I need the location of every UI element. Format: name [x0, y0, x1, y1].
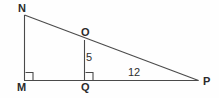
measure-label-oq: 5	[86, 52, 92, 63]
vertex-label-n: N	[18, 3, 26, 14]
vertex-label-p: P	[203, 76, 210, 87]
geometry-figure: N M P O Q 5 12	[0, 0, 219, 98]
right-angle-marker-q	[86, 73, 94, 81]
segment-np	[25, 15, 199, 81]
vertex-label-q: Q	[81, 82, 90, 93]
vertex-label-o: O	[81, 27, 90, 38]
right-angle-marker-m	[26, 73, 34, 81]
vertex-label-m: M	[17, 82, 26, 93]
measure-label-qp: 12	[128, 67, 140, 78]
geometry-canvas	[0, 0, 219, 98]
